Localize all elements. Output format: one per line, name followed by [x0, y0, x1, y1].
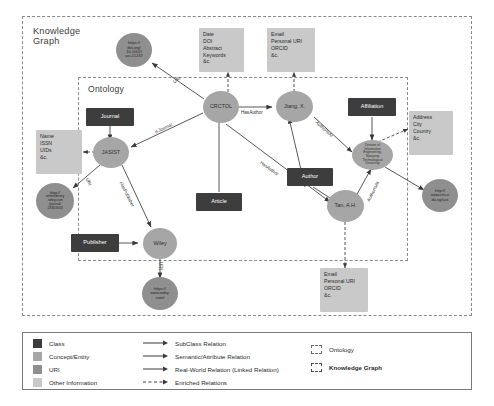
legend-box-knowledge-graph — [311, 363, 322, 372]
legend-box-ontology — [311, 345, 322, 354]
uri-wiley: https:// www.wiley. com/ — [142, 277, 178, 310]
legend-label-subclass: SubClass Relation — [175, 340, 226, 347]
class-article: Article — [196, 193, 242, 211]
edge-label-uri-wiley: URI — [158, 262, 163, 270]
entity-jiang: Jiang, X. — [276, 91, 313, 122]
legend: Class Concept/Entity URI Other Informati… — [22, 332, 472, 390]
class-affiliation: Affiliation — [348, 98, 396, 116]
legend-label-uri: URI — [49, 366, 60, 373]
legend-label-knowledge-graph: Knowledge Graph — [329, 364, 382, 371]
info-box-article: Date DOI Abstract Keywords &c. — [199, 28, 244, 72]
entity-tan: Tan, A.H. — [327, 190, 364, 222]
entity-wiley: Wiley — [143, 228, 177, 259]
legend-label-other-information: Other Information — [49, 379, 97, 386]
legend-label-class: Class — [49, 340, 64, 347]
legend-arrow-enriched — [143, 378, 169, 386]
edge-ntu-uri — [385, 167, 424, 190]
entity-ntu-affiliation: Division of Information Engineering, Nan… — [352, 140, 393, 170]
legend-swatch-other-information — [33, 378, 42, 387]
info-box-journal: Name ISSN UIDs &c. — [36, 130, 82, 174]
uri-jasist: https:// onlinelibrary .wiley.com /journ… — [36, 183, 74, 219]
legend-arrow-subclass — [143, 339, 169, 347]
uri-doi: https:// doi.org/ 10.1002/ asi.21237 — [116, 33, 152, 67]
edge-label-hasauthor-jiang: HasAuthor — [241, 110, 263, 115]
legend-label-semantic-attribute: Semantic/Attribute Relation — [175, 353, 250, 360]
info-box-tan: Email Personal URI ORCID &c. — [320, 268, 368, 312]
legend-arrow-real-world — [143, 365, 169, 373]
legend-swatch-concept-entity — [33, 352, 42, 361]
legend-swatch-uri — [33, 365, 42, 374]
info-box-jiang: Email Personal URI ORCID &c. — [267, 28, 315, 72]
legend-label-concept-entity: Concept/Entity — [49, 353, 89, 360]
edge-crctol-jasist — [131, 113, 203, 147]
edge-crctol-tan — [226, 124, 330, 202]
legend-label-enriched: Enriched Relations — [175, 379, 227, 386]
legend-arrow-semantic-attribute — [143, 352, 169, 360]
class-author: Author — [287, 168, 333, 186]
entity-crctol: CRCTOL — [203, 91, 239, 123]
legend-label-real-world: Real-World Relation (Linked Relation) — [175, 366, 279, 373]
class-journal: Journal — [86, 108, 134, 126]
entity-jasist: JASIST — [93, 137, 129, 168]
uri-ntu: http:// www.ntu.e du.sg/sce — [422, 179, 458, 212]
knowledge-graph-diagram: Knowledge Graph Ontology — [0, 0, 494, 406]
class-publisher: Publisher — [71, 234, 119, 252]
legend-label-ontology: Ontology — [329, 346, 354, 353]
info-box-affiliation: Address City Country &c. — [409, 111, 453, 155]
legend-swatch-class — [33, 339, 42, 348]
